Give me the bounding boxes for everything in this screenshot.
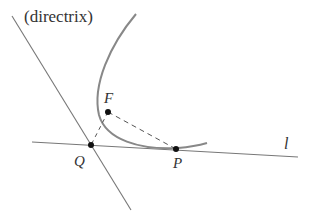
point-q xyxy=(88,142,94,148)
parabola-curve xyxy=(97,14,207,148)
segment-fp-dashed xyxy=(108,112,176,149)
line-l-label: l xyxy=(284,136,288,152)
focus-point xyxy=(105,109,111,115)
focus-label: F xyxy=(104,91,113,106)
diagram-graphics xyxy=(0,0,313,212)
point-p xyxy=(173,146,179,152)
parabola-reflection-diagram: (directrix) F Q P l xyxy=(0,0,313,212)
directrix-label: (directrix) xyxy=(24,8,93,25)
point-p-label: P xyxy=(173,156,182,171)
directrix-line xyxy=(12,16,131,210)
tangent-line-l xyxy=(32,142,298,157)
point-q-label: Q xyxy=(74,154,85,169)
